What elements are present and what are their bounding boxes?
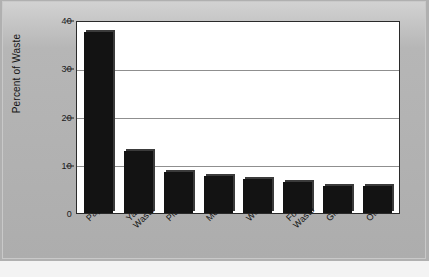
chart-figure: Percent of Waste 40 30 20 10 0 Paper Ya	[0, 0, 429, 277]
y-tick-mark-40	[66, 21, 74, 22]
y-tick-mark-30	[66, 69, 74, 70]
y-tick-label-20: 20	[18, 113, 72, 123]
y-tick-label-40: 40	[18, 16, 72, 26]
bar-paper	[84, 32, 113, 213]
y-tick-label-0: 0	[18, 209, 72, 219]
y-axis-ticks: 40 30 20 10 0	[0, 21, 72, 214]
x-axis-labels: Paper Yard Waste Plastic Metals Wood Foo…	[76, 216, 400, 272]
y-tick-mark-10	[66, 165, 74, 166]
bar-slot-paper	[84, 22, 113, 213]
y-tick-label-10: 10	[18, 161, 72, 171]
y-tick-label-30: 30	[18, 64, 72, 74]
y-tick-mark-20	[66, 117, 74, 118]
